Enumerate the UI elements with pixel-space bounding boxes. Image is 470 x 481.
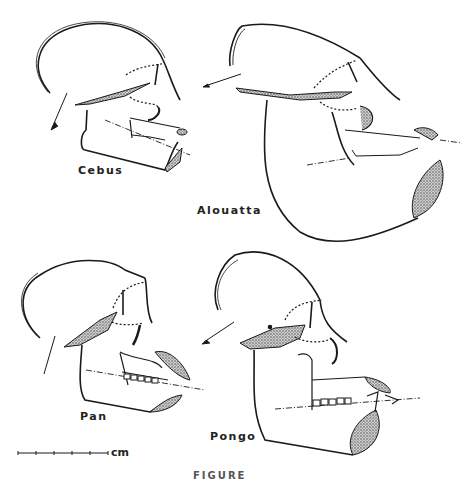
label-cebus: Cebus	[78, 164, 123, 177]
scale-bar	[18, 451, 108, 455]
skull-pongo	[202, 252, 420, 455]
scale-unit-label: cm	[111, 446, 129, 459]
skull-cebus	[36, 22, 190, 172]
label-pongo: Pongo	[210, 430, 256, 443]
label-alouatta: Alouatta	[197, 204, 262, 217]
skull-pan	[21, 260, 205, 412]
label-pan: Pan	[80, 410, 108, 423]
figure-caption: FIGURE	[193, 470, 246, 481]
